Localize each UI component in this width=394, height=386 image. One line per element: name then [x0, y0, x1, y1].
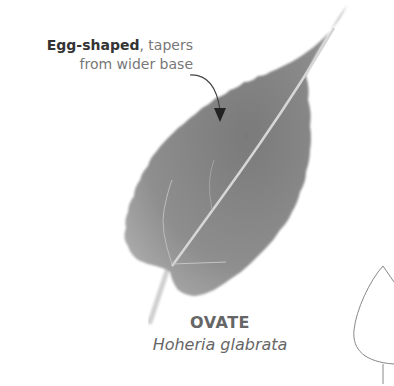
- ovate-leaf-icon: [124, 5, 347, 322]
- species-name: Hoheria glabrata: [145, 335, 295, 354]
- shape-title: OVATE: [175, 313, 265, 332]
- ovate-outline-icon: [354, 266, 394, 384]
